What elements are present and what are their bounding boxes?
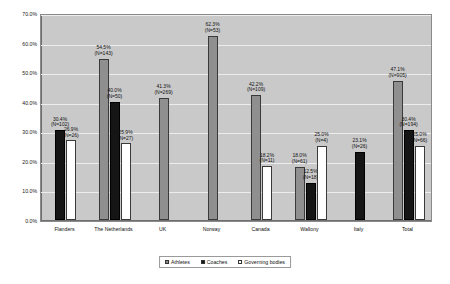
chart-legend: Athletes Coaches Governing bodies — [159, 256, 291, 268]
legend-swatch-athletes-icon — [165, 260, 169, 264]
y-axis-tick-label: 70.0% — [22, 11, 37, 17]
x-axis-label: UK — [159, 226, 166, 232]
legend-swatch-governing-bodies-icon — [238, 260, 242, 264]
bar-governing — [415, 146, 425, 220]
x-axis-label: Wallony — [300, 226, 318, 232]
bar-count-label: (N=66) — [412, 138, 427, 144]
bar-athletes — [393, 81, 403, 220]
y-axis-tick-label: 20.0% — [22, 159, 37, 165]
y-axis: 0.0%10.0%20.0%30.0%40.0%50.0%60.0%70.0% — [0, 14, 40, 222]
y-axis-tick-label: 50.0% — [22, 70, 37, 76]
plot-area: 30.4%(N=102)26.9%(N=26)54.5%(N=143)40.0%… — [40, 14, 432, 222]
legend-item-athletes: Athletes — [165, 259, 190, 265]
x-axis-label: Norway — [203, 226, 221, 232]
y-axis-tick-label: 10.0% — [22, 188, 37, 194]
legend-label-coaches: Coaches — [207, 259, 227, 265]
x-axis-label: Canada — [251, 226, 269, 232]
legend-item-coaches: Coaches — [201, 259, 227, 265]
legend-label-governing-bodies: Governing bodies — [244, 259, 285, 265]
x-axis-label: Total — [402, 226, 413, 232]
x-axis-label: Italy — [354, 226, 364, 232]
x-axis-label: Flanders — [54, 226, 74, 232]
legend-item-governing-bodies: Governing bodies — [238, 259, 285, 265]
x-axis-line — [41, 220, 431, 221]
legend-label-athletes: Athletes — [171, 259, 190, 265]
y-axis-tick-label: 0.0% — [25, 218, 37, 224]
y-axis-tick-label: 40.0% — [22, 100, 37, 106]
x-axis-label: The Netherlands — [94, 226, 132, 232]
bar-count-label: (N=905) — [388, 73, 406, 79]
bar-group: 47.1%(N=905)30.4%(N=194)25.0%(N=66) — [41, 15, 433, 220]
bar-value-label: 30.4%(N=194) — [399, 117, 417, 129]
bar-value-label: 47.1%(N=905) — [388, 67, 406, 79]
y-axis-tick-label: 60.0% — [22, 41, 37, 47]
y-axis-tick-label: 30.0% — [22, 129, 37, 135]
bar-count-label: (N=194) — [399, 122, 417, 128]
bar-chart: 0.0%10.0%20.0%30.0%40.0%50.0%60.0%70.0% … — [0, 0, 450, 284]
bar-value-label: 25.0%(N=66) — [412, 132, 427, 144]
x-axis-labels: FlandersThe NetherlandsUKNorwayCanadaWal… — [40, 226, 432, 240]
legend-swatch-coaches-icon — [201, 260, 205, 264]
